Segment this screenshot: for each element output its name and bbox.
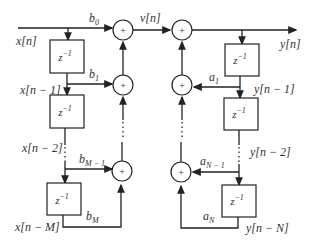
plus-sign: + xyxy=(179,25,185,36)
plus-sign: + xyxy=(120,80,126,91)
plus-sign: + xyxy=(179,80,185,91)
signal-y-n-1: y[n − 1] xyxy=(253,82,295,96)
coef-b1-label: b1 xyxy=(89,67,99,83)
signal-y-n-2: y[n − 2] xyxy=(249,145,291,159)
signal-v-n: v[n] xyxy=(140,11,161,25)
coef-bM-1-label: bM − 1 xyxy=(79,152,105,168)
coef-b0-label: b0 xyxy=(89,11,99,27)
coef-bM-label: bM xyxy=(86,209,100,225)
signal-x-n-M: x[n − M] xyxy=(14,220,60,234)
plus-sign: + xyxy=(119,166,125,177)
iir-filter-diagram: x[n] b0 z−1 x[n − 1] b1 z−1 x[n − 2] bM … xyxy=(0,0,309,252)
coef-aN-label: aN xyxy=(203,209,215,225)
signal-x-n-2: x[n − 2] xyxy=(21,141,63,155)
signal-y-n-N: y[n − N] xyxy=(245,221,289,235)
coef-a1-label: a1 xyxy=(209,70,219,86)
coef-aN-1-label: aN − 1 xyxy=(200,154,225,170)
input-label: x[n] xyxy=(15,34,37,48)
output-label: y[n] xyxy=(279,37,301,51)
plus-sign: + xyxy=(178,167,184,178)
plus-sign: + xyxy=(120,25,126,36)
